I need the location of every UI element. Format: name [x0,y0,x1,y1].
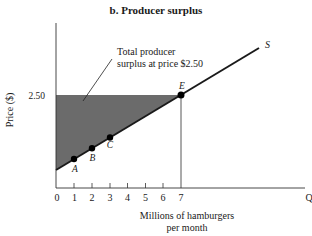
supply-curve-label: S [265,39,270,50]
x-tick-label: 6 [161,192,166,203]
chart-title: b. Producer surplus [110,4,204,16]
x-axis-end-label: Q [305,192,312,203]
x-tick-label: 1 [72,192,77,203]
annotation-leader-line [83,59,112,101]
x-axis-title-line2: per month [167,222,208,233]
y-tick-label: 2.50 [28,91,45,101]
point-e [178,92,185,99]
x-tick-label: 5 [143,192,148,203]
point-a [71,156,77,162]
x-tick-label: 7 [179,192,184,203]
x-axis-title-line1: Millions of hamburgers [140,210,234,221]
producer-surplus-chart: b. Producer surplus 0 1 2 3 4 5 6 7 Q Mi… [0,0,312,236]
annotation-line2: surplus at price $2.50 [117,58,203,69]
annotation-line1: Total producer [117,46,176,57]
point-c-label: C [107,140,114,150]
point-a-label: A [71,164,78,174]
x-tick-label: 3 [108,192,113,203]
point-e-label: E [178,81,185,91]
y-axis-title: Price ($) [4,93,16,128]
point-b-label: B [90,153,96,163]
x-tick-label: 0 [55,192,60,203]
point-b [89,145,95,151]
x-tick-labels: 0 1 2 3 4 5 6 7 [55,192,184,203]
x-tick-label: 2 [90,192,95,203]
x-tick-label: 4 [125,192,130,203]
x-ticks [74,183,163,188]
